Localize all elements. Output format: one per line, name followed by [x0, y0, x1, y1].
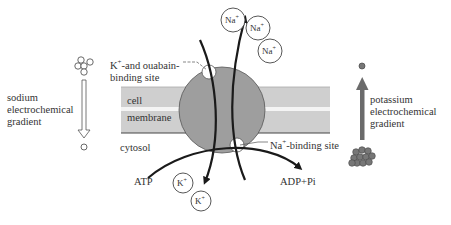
- sodium-ion: Na+: [221, 8, 245, 32]
- sodium-high-concentration-icon: [75, 57, 93, 75]
- atp-label: ATP: [134, 176, 153, 188]
- adp-pi-label: ADP+Pi: [280, 176, 316, 188]
- potassium-ion: K+: [173, 173, 193, 193]
- membrane-label: membrane: [127, 112, 171, 124]
- potassium-low-concentration-icon: [359, 63, 365, 69]
- potassium-gradient-label: potassium electrochemical gradient: [370, 94, 436, 130]
- sodium-potassium-pump-diagram: Na+ Na+ Na+ K+ K+: [0, 0, 451, 225]
- sodium-low-concentration-icon: [81, 144, 87, 150]
- potassium-ion: K+: [191, 191, 211, 211]
- potassium-gradient-arrow-icon: [356, 77, 369, 140]
- cytosol-label: cytosol: [120, 142, 150, 154]
- k-ouabain-binding-site-label: K+-and ouabain- binding site: [110, 56, 180, 84]
- sodium-ion: Na+: [246, 16, 270, 40]
- sodium-gradient-label: sodium electrochemical gradient: [7, 92, 73, 128]
- sodium-ion: Na+: [258, 39, 282, 63]
- sodium-gradient-arrow-icon: [78, 80, 90, 138]
- cell-label: cell: [127, 95, 142, 107]
- pump-protein: [179, 65, 265, 153]
- na-binding-site-label: Na+-binding site: [270, 136, 339, 152]
- potassium-high-concentration-icon: [349, 147, 376, 167]
